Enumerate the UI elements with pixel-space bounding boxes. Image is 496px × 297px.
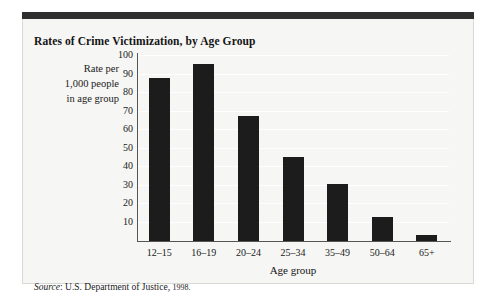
chart-panel: Rates of Crime Victimization, by Age Gro… — [22, 19, 474, 284]
figure-top-rule — [22, 12, 474, 19]
source-body: : U.S. Department of Justice, — [60, 282, 170, 292]
y-axis-tick-label: 90 — [123, 69, 133, 79]
x-axis-tick-label: 20–24 — [226, 247, 271, 258]
x-axis-tick-label: 50–64 — [360, 247, 405, 258]
source-year: 1998. — [172, 283, 190, 292]
x-axis-tick-label: 65+ — [404, 247, 449, 258]
source-label: Source — [34, 282, 60, 292]
x-axis-tick-label: 35–49 — [315, 247, 360, 258]
bar — [149, 78, 170, 241]
x-axis-tick-label: 12–15 — [137, 247, 182, 258]
y-axis-tick-label: 70 — [123, 106, 133, 116]
x-axis-line — [137, 241, 451, 242]
source-note: Source: U.S. Department of Justice, 1998… — [34, 282, 190, 292]
chart-title: Rates of Crime Victimization, by Age Gro… — [34, 35, 256, 47]
y-axis-tick-label: 30 — [123, 180, 133, 190]
y-axis-tick-label: 10 — [123, 217, 133, 227]
bar — [372, 217, 393, 241]
y-axis-tick-labels: 102030405060708090100 — [101, 55, 133, 240]
bar — [283, 157, 304, 241]
x-axis-tick-labels: 12–1516–1920–2425–3435–4950–6465+ — [137, 247, 449, 261]
bar — [416, 235, 437, 241]
y-axis-tick-label: 60 — [123, 124, 133, 134]
y-axis-tick-label: 20 — [123, 198, 133, 208]
bar — [193, 64, 214, 241]
chart-figure: Rates of Crime Victimization, by Age Gro… — [22, 12, 474, 284]
y-axis-tick-label: 80 — [123, 87, 133, 97]
y-axis-tick-label: 100 — [118, 50, 133, 60]
bar — [327, 184, 348, 241]
bar-series — [137, 55, 449, 241]
x-axis-tick-label: 16–19 — [182, 247, 227, 258]
y-axis-tick-label: 40 — [123, 161, 133, 171]
y-axis-tick-label: 50 — [123, 143, 133, 153]
bar — [238, 116, 259, 241]
x-axis-title: Age group — [137, 264, 449, 276]
x-axis-tick-label: 25–34 — [271, 247, 316, 258]
